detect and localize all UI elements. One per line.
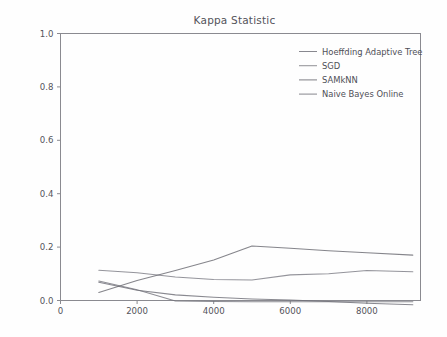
x-tick-label: 6000 (279, 306, 301, 316)
chart-plot: 0.00.20.40.60.81.0 02000400060008000 Hoe… (0, 0, 447, 337)
legend-label-3: SAMkNN (322, 75, 358, 85)
chart-legend: Hoeffding Adaptive TreeSGDSAMkNNNaive Ba… (293, 41, 422, 105)
y-tick-label: 1.0 (40, 29, 54, 39)
y-tick-label: 0.2 (40, 242, 54, 252)
y-tick-label: 0.6 (40, 135, 54, 145)
y-axis-ticks: 0.00.20.40.60.81.0 (40, 29, 61, 306)
legend-label-2: SGD (322, 61, 340, 71)
x-tick-label: 2000 (126, 306, 148, 316)
x-tick-label: 0 (58, 306, 63, 316)
series-line-samknn (99, 246, 413, 292)
x-tick-label: 8000 (356, 306, 378, 316)
y-tick-label: 0.4 (40, 189, 54, 199)
y-tick-label: 0.0 (40, 296, 54, 306)
x-axis-ticks: 02000400060008000 (58, 301, 378, 316)
legend-label-4: Naive Bayes Online (322, 89, 404, 99)
x-tick-label: 4000 (203, 306, 225, 316)
y-tick-label: 0.8 (40, 82, 54, 92)
axes-frame (61, 34, 421, 301)
series-group (99, 246, 413, 305)
legend-label-1: Hoeffding Adaptive Tree (322, 47, 422, 57)
figure-canvas: Kappa Statistic 0.00.20.40.60.81.0 02000… (0, 0, 447, 337)
axes-group (61, 34, 421, 301)
